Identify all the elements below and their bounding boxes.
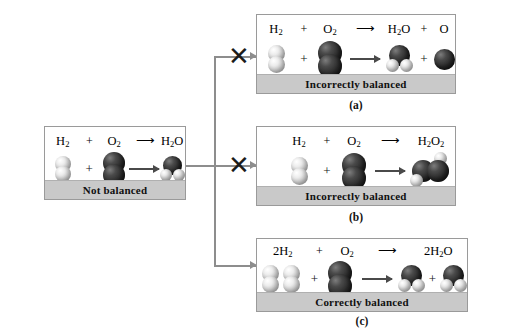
subscript-2: 2 — [288, 249, 292, 259]
formula-product-2h2o: 2H2O — [410, 244, 467, 259]
reaction-arrow — [350, 58, 380, 60]
formula-product-h2o: H2O — [383, 22, 415, 37]
atom-hydrogen — [291, 168, 308, 185]
element-h: H — [388, 22, 397, 36]
status-footer-c: Correctly balanced — [257, 292, 467, 311]
element-h: H — [279, 244, 288, 258]
reaction-arrow — [375, 170, 405, 172]
x-mark-panel-a: ✕ — [228, 43, 250, 69]
formula-row-not-balanced: H2 + O2 ⟶ H2O — [45, 133, 185, 149]
molecule-h2 — [262, 265, 279, 293]
subscript-2: 2 — [332, 27, 336, 37]
subscript-2: 2 — [350, 249, 354, 259]
formula-product-h2o2: H2O2 — [409, 134, 453, 149]
panel-incorrect-a: H2 + O2 ⟶ H2O + O + — [256, 14, 456, 94]
molecule-row-a: + + — [257, 39, 455, 79]
molecule-o — [434, 49, 455, 70]
molecule-h2o — [398, 265, 424, 293]
molecule-h2 — [268, 45, 285, 73]
sublabel-b: (b) — [336, 211, 376, 223]
formula-arrow: ⟶ — [130, 133, 160, 149]
formula-reactant-o2: O2 — [98, 134, 130, 149]
formula-arrow: ⟶ — [364, 243, 410, 259]
element-h: H — [56, 134, 65, 148]
formula-row-b: H2 + O2 ⟶ H2O2 — [257, 133, 455, 149]
atom-hydrogen — [268, 56, 285, 73]
molecule-h2 — [283, 265, 300, 293]
element-h: H — [161, 134, 170, 148]
formula-plus-1: + — [81, 134, 99, 149]
formula-reactant-o2: O2 — [337, 134, 371, 149]
status-footer-a: Incorrectly balanced — [257, 74, 455, 93]
molecule-o2 — [318, 41, 342, 77]
atom-hydrogen — [398, 279, 411, 292]
subscript-2: 2 — [278, 27, 282, 37]
atom-oxygen — [427, 160, 449, 182]
atom-hydrogen — [386, 59, 399, 72]
panel-correct-c: 2H2 + O2 ⟶ 2H2O + — [256, 238, 468, 312]
molecule-plus-1: + — [295, 39, 313, 79]
x-mark-panel-b: ✕ — [228, 152, 250, 178]
element-h: H — [418, 134, 427, 148]
molecule-h2o — [386, 45, 412, 73]
formula-reactant-h2: H2 — [45, 134, 81, 149]
formula-plus-2: + — [415, 22, 433, 37]
status-footer-b: Incorrectly balanced — [257, 186, 455, 205]
molecule-row-b: + — [257, 151, 455, 191]
formula-product-o: O — [433, 22, 455, 37]
formula-row-c: 2H2 + O2 ⟶ 2H2O — [257, 243, 467, 259]
formula-reactant-o2: O2 — [313, 22, 347, 37]
formula-arrow: ⟶ — [371, 133, 409, 149]
reaction-arrow — [129, 168, 159, 170]
molecule-h2o — [160, 156, 184, 182]
atom-hydrogen — [262, 276, 279, 293]
molecule-h2o — [440, 265, 466, 293]
molecule-h2 — [55, 156, 71, 182]
molecule-plus-2: + — [415, 39, 433, 79]
atom-hydrogen — [283, 276, 300, 293]
panel-not-balanced: H2 + O2 ⟶ H2O + — [44, 126, 186, 200]
atom-hydrogen — [400, 59, 413, 72]
formula-reactant-o2: O2 — [330, 244, 364, 259]
atom-hydrogen — [440, 279, 453, 292]
formula-plus-1: + — [317, 134, 337, 149]
element-o: O — [401, 22, 410, 36]
formula-reactant-2h2: 2H2 — [257, 244, 309, 259]
panel-incorrect-b: H2 + O2 ⟶ H2O2 + — [256, 126, 456, 206]
molecule-h2 — [291, 157, 308, 185]
element-o: O — [444, 244, 453, 258]
element-h: H — [430, 244, 439, 258]
subscript-2: 2 — [356, 139, 360, 149]
formula-row-a: H2 + O2 ⟶ H2O + O — [257, 21, 455, 37]
formula-plus-1: + — [295, 22, 313, 37]
formula-arrow: ⟶ — [347, 21, 383, 37]
formula-plus-1: + — [309, 244, 331, 259]
subscript-2: 2 — [301, 139, 305, 149]
status-footer-not-balanced: Not balanced — [45, 180, 185, 199]
atom-hydrogen — [412, 279, 425, 292]
figure-canvas: ✕ ✕ H2 + O2 ⟶ H2O + — [0, 0, 512, 330]
atom-hydrogen — [454, 279, 467, 292]
formula-product-h2o: H2O — [159, 134, 185, 149]
reaction-arrow — [362, 278, 392, 280]
subscript-2: 2 — [65, 139, 69, 149]
sublabel-c: (c) — [342, 315, 382, 327]
sublabel-a: (a) — [336, 99, 376, 111]
molecule-plus-1: + — [317, 151, 337, 191]
formula-reactant-h2: H2 — [257, 22, 295, 37]
element-o: O — [341, 244, 350, 258]
subscript-2: 2 — [116, 139, 120, 149]
element-o: O — [431, 134, 440, 148]
subscript-2: 2 — [440, 139, 444, 149]
formula-reactant-h2: H2 — [281, 134, 317, 149]
element-o: O — [174, 134, 183, 148]
connector-vertical-trunk — [214, 56, 216, 266]
atom-oxygen — [434, 49, 455, 70]
molecule-o2 — [342, 153, 366, 189]
molecule-h2o2 — [410, 152, 452, 190]
